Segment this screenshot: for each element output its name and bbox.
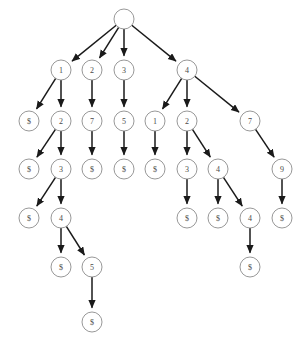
node-circle[interactable] bbox=[114, 60, 134, 80]
node-circle[interactable] bbox=[177, 60, 197, 80]
tree-node[interactable]: 4 bbox=[208, 159, 228, 179]
tree-node[interactable]: $ bbox=[177, 208, 197, 228]
tree-node[interactable]: $ bbox=[114, 159, 134, 179]
tree-node[interactable]: 4 bbox=[240, 208, 260, 228]
tree-node[interactable]: $ bbox=[240, 257, 260, 277]
tree-node[interactable]: 4 bbox=[177, 60, 197, 80]
tree-node[interactable]: 7 bbox=[240, 111, 260, 131]
tree-node[interactable]: $ bbox=[51, 257, 71, 277]
tree-node[interactable]: 2 bbox=[177, 111, 197, 131]
tree-node[interactable]: 3 bbox=[114, 60, 134, 80]
node-circle[interactable] bbox=[240, 208, 260, 228]
tree-node[interactable]: 7 bbox=[82, 111, 102, 131]
tree-node[interactable]: 3 bbox=[51, 159, 71, 179]
node-circle[interactable] bbox=[51, 257, 71, 277]
node-circle[interactable] bbox=[82, 111, 102, 131]
tree-node[interactable]: 9 bbox=[272, 159, 292, 179]
node-circle[interactable] bbox=[51, 60, 71, 80]
tree-edge bbox=[37, 78, 56, 109]
tree-edge bbox=[37, 177, 56, 206]
node-circle[interactable] bbox=[208, 159, 228, 179]
node-circle[interactable] bbox=[19, 208, 39, 228]
node-circle[interactable] bbox=[145, 111, 165, 131]
tree-edge bbox=[195, 76, 239, 112]
tree-node[interactable]: 4 bbox=[51, 208, 71, 228]
node-circle[interactable] bbox=[19, 159, 39, 179]
node-circle[interactable] bbox=[51, 208, 71, 228]
tree-node[interactable]: $ bbox=[19, 208, 39, 228]
node-circle[interactable] bbox=[114, 159, 134, 179]
tree-diagram: 1234$275127$3$$$349$4$$4$$5$$ bbox=[0, 0, 299, 343]
node-circle[interactable] bbox=[19, 111, 39, 131]
node-circle[interactable] bbox=[51, 159, 71, 179]
tree-edge bbox=[132, 25, 176, 61]
node-circle[interactable] bbox=[240, 257, 260, 277]
tree-edge bbox=[163, 78, 182, 109]
tree-node[interactable]: $ bbox=[145, 159, 165, 179]
nodes-layer: 1234$275127$3$$$349$4$$4$$5$$ bbox=[19, 9, 292, 332]
node-circle[interactable] bbox=[114, 9, 134, 29]
node-circle[interactable] bbox=[177, 159, 197, 179]
node-circle[interactable] bbox=[145, 159, 165, 179]
tree-node-root[interactable] bbox=[114, 9, 134, 29]
node-circle[interactable] bbox=[51, 111, 71, 131]
tree-edge bbox=[223, 177, 242, 206]
tree-node[interactable]: 2 bbox=[82, 60, 102, 80]
tree-node[interactable]: 3 bbox=[177, 159, 197, 179]
tree-node[interactable]: 5 bbox=[82, 257, 102, 277]
tree-node[interactable]: 1 bbox=[51, 60, 71, 80]
tree-edge bbox=[100, 27, 119, 58]
node-circle[interactable] bbox=[114, 111, 134, 131]
tree-edge bbox=[37, 129, 56, 157]
tree-node[interactable]: 5 bbox=[114, 111, 134, 131]
node-circle[interactable] bbox=[82, 257, 102, 277]
tree-node[interactable]: $ bbox=[19, 111, 39, 131]
tree-node[interactable]: $ bbox=[82, 159, 102, 179]
node-circle[interactable] bbox=[272, 208, 292, 228]
node-circle[interactable] bbox=[82, 159, 102, 179]
tree-edge bbox=[256, 129, 275, 157]
node-circle[interactable] bbox=[208, 208, 228, 228]
node-circle[interactable] bbox=[177, 111, 197, 131]
tree-node[interactable]: $ bbox=[19, 159, 39, 179]
node-circle[interactable] bbox=[177, 208, 197, 228]
tree-node[interactable]: $ bbox=[208, 208, 228, 228]
tree-edge bbox=[66, 226, 84, 255]
tree-edge bbox=[192, 129, 210, 157]
tree-node[interactable]: 1 bbox=[145, 111, 165, 131]
node-circle[interactable] bbox=[82, 312, 102, 332]
tree-diagram-canvas: 1234$275127$3$$$349$4$$4$$5$$ bbox=[0, 0, 299, 343]
node-circle[interactable] bbox=[82, 60, 102, 80]
tree-node[interactable]: $ bbox=[272, 208, 292, 228]
tree-node[interactable]: $ bbox=[82, 312, 102, 332]
node-circle[interactable] bbox=[272, 159, 292, 179]
node-circle[interactable] bbox=[240, 111, 260, 131]
tree-node[interactable]: 2 bbox=[51, 111, 71, 131]
